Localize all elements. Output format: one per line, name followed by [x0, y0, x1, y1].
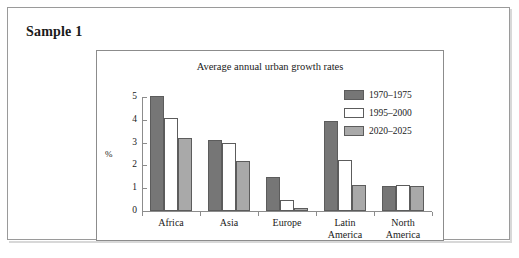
x-axis-tick	[258, 212, 259, 216]
bar	[338, 160, 352, 211]
bar	[280, 200, 294, 211]
legend-item: 1995–2000	[344, 105, 412, 120]
sample-title: Sample 1	[26, 24, 82, 40]
chart-container: Average annual urban growth rates % 0123…	[96, 50, 444, 241]
page-frame: Sample 1 Average annual urban growth rat…	[7, 7, 510, 240]
y-axis-tick	[143, 188, 147, 189]
chart-legend: 1970–19751995–20002020–2025	[344, 87, 412, 141]
y-axis-title: %	[105, 149, 113, 159]
bar	[266, 177, 280, 211]
bar	[236, 161, 250, 211]
y-axis-tick-label: 1	[113, 183, 137, 193]
plot-area: % 012345 AfricaAsiaEuropeLatin AmericaNo…	[97, 51, 443, 240]
y-axis-tick-label: 0	[113, 206, 137, 216]
bar	[324, 121, 338, 211]
bar	[178, 138, 192, 211]
legend-swatch	[344, 126, 364, 136]
bar	[410, 186, 424, 211]
bar	[396, 185, 410, 211]
y-axis-line	[142, 97, 143, 212]
x-axis-tick	[374, 212, 375, 216]
legend-label: 1995–2000	[369, 108, 412, 118]
y-axis-tick	[143, 120, 147, 121]
y-axis-tick-label: 3	[113, 138, 137, 148]
x-axis-tick	[432, 212, 433, 216]
y-axis-tick-label: 5	[113, 92, 137, 102]
bar	[352, 185, 366, 211]
y-axis-tick	[143, 165, 147, 166]
legend-item: 1970–1975	[344, 87, 412, 102]
bar	[208, 140, 222, 211]
legend-label: 2020–2025	[369, 126, 412, 136]
bar	[222, 143, 236, 211]
bar	[150, 96, 164, 211]
y-axis-tick	[143, 97, 147, 98]
page-frame-shadow-bottom	[9, 241, 512, 243]
x-axis-tick	[316, 212, 317, 216]
legend-item: 2020–2025	[344, 123, 412, 138]
y-axis-tick-label: 2	[113, 160, 137, 170]
bar	[164, 118, 178, 211]
legend-label: 1970–1975	[369, 90, 412, 100]
y-axis-tick	[143, 211, 147, 212]
y-axis-tick-label: 4	[113, 115, 137, 125]
legend-swatch	[344, 108, 364, 118]
bar	[382, 186, 396, 211]
page-frame-shadow-right	[510, 9, 512, 243]
legend-swatch	[344, 90, 364, 100]
x-axis-line	[142, 211, 432, 212]
x-axis-tick	[142, 212, 143, 216]
y-axis-tick	[143, 143, 147, 144]
x-axis-tick	[200, 212, 201, 216]
bar	[294, 208, 308, 211]
x-axis-label: North America	[368, 217, 438, 240]
